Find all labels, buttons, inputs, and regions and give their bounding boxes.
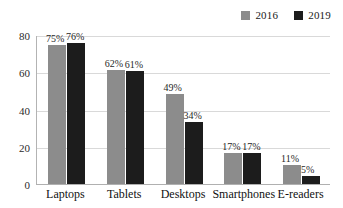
legend-swatch-2016 [241, 11, 250, 20]
y-tick-label-0: 0 [4, 180, 30, 191]
bar-value-label-desktops-2016: 49% [164, 83, 182, 93]
bar-group-e-readers: 11%5% [283, 36, 320, 185]
legend-item-2019: 2019 [294, 10, 331, 21]
bar-group-tablets: 62%61% [107, 36, 144, 185]
bar-laptops-2016[interactable] [48, 45, 66, 185]
bar-laptops-2019[interactable] [67, 43, 85, 185]
y-tick-label-60: 60 [4, 68, 30, 79]
x-axis-baseline [36, 184, 330, 185]
bar-desktops-2019[interactable] [185, 122, 203, 185]
bar-value-label-tablets-2016: 62% [105, 59, 123, 69]
bar-smartphones-2016[interactable] [224, 153, 242, 185]
y-tick-label-40: 40 [4, 105, 30, 116]
bar-value-label-desktops-2019: 34% [184, 111, 202, 121]
y-axis-line [36, 36, 37, 185]
bar-value-label-smartphones-2016: 17% [222, 142, 240, 152]
x-label-smartphones: Smartphones [212, 188, 271, 201]
bar-value-label-tablets-2019: 61% [125, 60, 143, 70]
bar-value-label-e-readers-2019: 5% [301, 165, 314, 175]
bar-group-desktops: 49%34% [166, 36, 203, 185]
bar-value-label-laptops-2016: 75% [46, 34, 64, 44]
bar-group-laptops: 75%76% [48, 36, 85, 185]
legend-label-2016: 2016 [255, 10, 278, 21]
bar-value-label-e-readers-2016: 11% [281, 154, 299, 164]
y-tick-label-80: 80 [4, 31, 30, 42]
x-label-desktops: Desktops [154, 188, 213, 201]
legend-item-2016: 2016 [241, 10, 278, 21]
x-label-e-readers: E-readers [271, 188, 330, 201]
legend-label-2019: 2019 [308, 10, 331, 21]
y-tick-label-20: 20 [4, 142, 30, 153]
bar-group-smartphones: 17%17% [224, 36, 261, 185]
bar-tablets-2016[interactable] [107, 70, 125, 185]
bar-e-readers-2016[interactable] [283, 165, 301, 185]
bar-tablets-2019[interactable] [126, 71, 144, 185]
x-label-laptops: Laptops [36, 188, 95, 201]
bar-desktops-2016[interactable] [166, 94, 184, 185]
chart-legend: 2016 2019 [0, 8, 343, 22]
x-label-tablets: Tablets [95, 188, 154, 201]
bar-value-label-smartphones-2019: 17% [242, 142, 260, 152]
bar-smartphones-2019[interactable] [243, 153, 261, 185]
legend-swatch-2019 [294, 11, 303, 20]
plot-area: 75%76%62%61%49%34%17%17%11%5% [36, 36, 330, 185]
bar-value-label-laptops-2019: 76% [66, 32, 84, 42]
